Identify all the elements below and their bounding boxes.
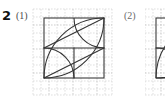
figure-1-grid bbox=[33, 9, 112, 95]
figure-1 bbox=[33, 9, 112, 95]
worksheet-page: 2 (1) (2) bbox=[0, 0, 165, 101]
figure-2 bbox=[145, 9, 165, 95]
figures-canvas bbox=[0, 0, 165, 101]
figure-1-arc-bottom-left-small bbox=[44, 48, 74, 78]
